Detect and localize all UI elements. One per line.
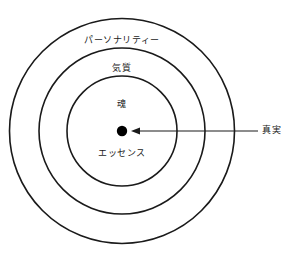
ring-label-temperament: 気質 xyxy=(112,63,131,74)
concentric-circles-diagram: パーソナリティー 気質 魂 エッセンス 真実 xyxy=(0,0,291,269)
ring-label-personality: パーソナリティー xyxy=(84,35,160,46)
center-dot xyxy=(117,126,127,136)
ring-label-soul: 魂 xyxy=(117,99,127,110)
callout-label-truth: 真実 xyxy=(262,125,281,136)
ring-label-essence: エッセンス xyxy=(98,148,146,159)
callout-arrow-head xyxy=(131,127,140,134)
